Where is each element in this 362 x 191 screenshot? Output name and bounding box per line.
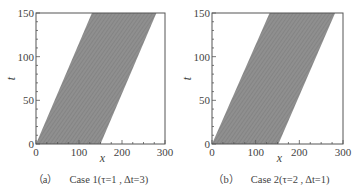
caption-text-a: Case 1(τ=1 , Δt=3) (69, 174, 148, 185)
x-axis-label: x (99, 151, 106, 165)
panel-a: 0100200300050100150xt （a）Case 1(τ=1 , Δt… (0, 0, 181, 191)
y-tick-label: 150 (18, 7, 35, 19)
x-tick-label: 0 (33, 146, 39, 158)
y-axis-label: t (181, 76, 194, 80)
trajectory-band (212, 13, 335, 144)
y-tick-label: 50 (23, 94, 35, 106)
x-tick-label: 300 (335, 146, 352, 158)
chart-b: 0100200300050100150xt (181, 0, 362, 170)
y-axis-label: t (4, 76, 18, 80)
caption-a: （a）Case 1(τ=1 , Δt=3) (0, 171, 181, 186)
y-tick-label: 100 (194, 51, 211, 63)
caption-b: （b）Case 2(τ=2 , Δt=1) (181, 171, 362, 186)
x-tick-label: 200 (114, 146, 131, 158)
panel-b: 0100200300050100150xt （b）Case 2(τ=2 , Δt… (181, 0, 362, 191)
y-tick-label: 0 (205, 138, 211, 150)
y-tick-label: 50 (199, 94, 211, 106)
x-tick-label: 0 (209, 146, 215, 158)
x-axis-label: x (276, 151, 283, 165)
caption-tag-b: （b） (213, 174, 238, 185)
x-tick-label: 300 (157, 146, 174, 158)
y-tick-label: 150 (194, 7, 211, 19)
chart-a: 0100200300050100150xt (0, 0, 181, 170)
caption-tag-a: （a） (33, 174, 58, 185)
trajectory-band (36, 13, 156, 144)
y-tick-label: 100 (18, 51, 35, 63)
y-tick-label: 0 (29, 138, 35, 150)
x-tick-label: 100 (247, 146, 264, 158)
x-tick-label: 200 (291, 146, 308, 158)
x-tick-label: 100 (71, 146, 88, 158)
caption-text-b: Case 2(τ=2 , Δt=1) (251, 174, 330, 185)
